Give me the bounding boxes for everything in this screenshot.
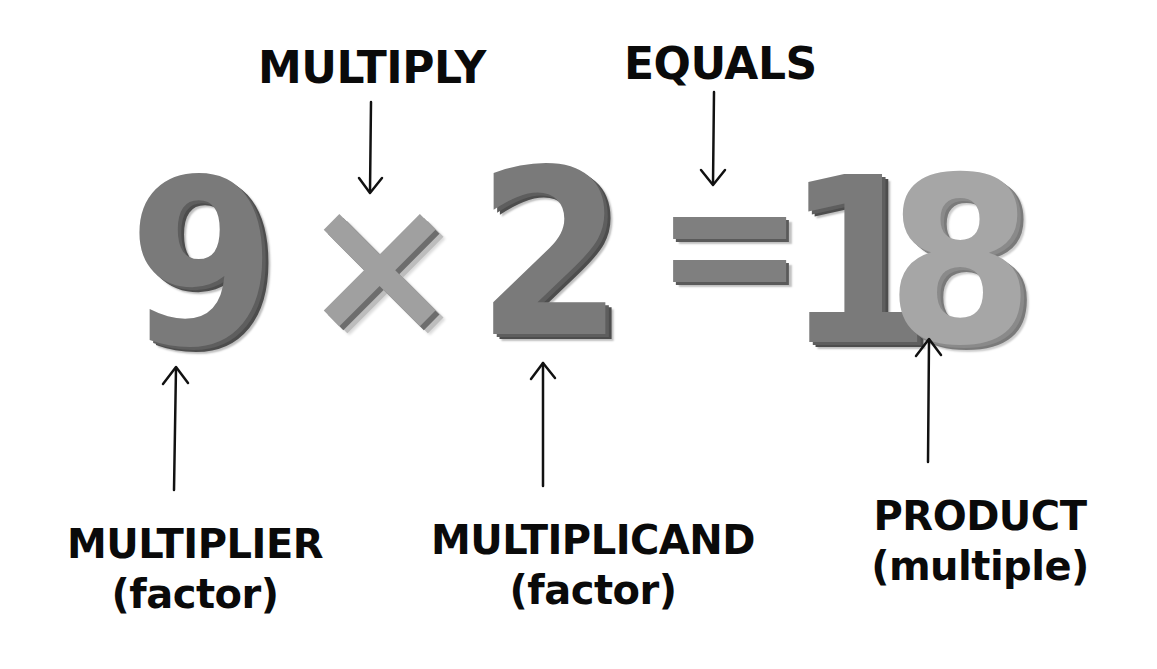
- product-label: PRODUCT (multiple): [855, 492, 1105, 590]
- product-sub: (multiple): [855, 542, 1105, 590]
- multiplier-term: MULTIPLIER: [50, 520, 340, 568]
- multiply-arrow-icon: [359, 102, 382, 193]
- multiplier-sub: (factor): [50, 570, 340, 618]
- multiplicand-label: MULTIPLICAND (factor): [408, 516, 778, 614]
- multiplier-label: MULTIPLIER (factor): [50, 520, 340, 618]
- product-arrow-icon: [916, 339, 941, 462]
- product-term: PRODUCT: [855, 492, 1105, 540]
- multiplicand-term: MULTIPLICAND: [408, 516, 778, 564]
- multiplicand-arrow-icon: [531, 363, 555, 486]
- multiplier-arrow-icon: [163, 367, 188, 490]
- equals-arrow-icon: [701, 92, 725, 185]
- multiplicand-sub: (factor): [408, 566, 778, 614]
